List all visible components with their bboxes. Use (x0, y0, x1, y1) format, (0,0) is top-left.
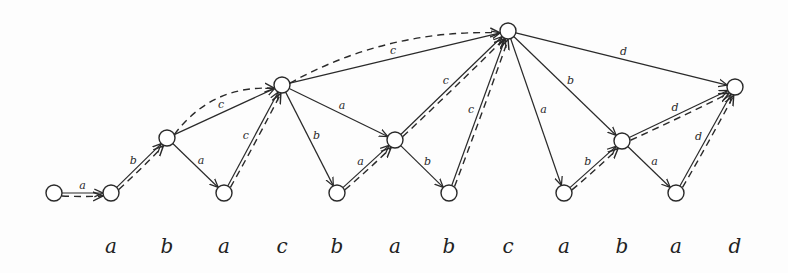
input-character: b (157, 234, 177, 258)
suffix-link-edge (62, 196, 103, 197)
state-node (727, 79, 743, 95)
automaton-diagram: abaccbaacbccabbaddd abacbabcabad (0, 0, 788, 273)
edge-label: b (584, 155, 591, 168)
edge-label: b (130, 154, 137, 167)
suffix-link-edge (631, 93, 730, 140)
state-node (500, 23, 516, 39)
state-node (216, 185, 232, 201)
edge-label: b (313, 129, 320, 142)
input-character: a (666, 234, 686, 258)
edge-label: d (620, 45, 627, 58)
edge-label: c (243, 129, 249, 142)
transition-edge (343, 145, 389, 187)
state-node (441, 185, 457, 201)
suffix-link-edge (119, 146, 164, 190)
state-node (46, 185, 62, 201)
graph-canvas: abaccbaacbccabbaddd (0, 0, 788, 273)
edge-label: c (468, 103, 474, 116)
edge-label: a (339, 99, 346, 112)
input-character: b (439, 234, 459, 258)
input-character: a (101, 234, 121, 258)
edge-label: a (357, 155, 364, 168)
edge-label: d (672, 101, 679, 114)
suffix-link-edge (403, 39, 504, 137)
state-node (556, 185, 572, 201)
transition-edge (401, 37, 502, 135)
edge-label: d (695, 130, 702, 143)
edge-label: a (540, 103, 547, 116)
transition-edge (117, 144, 162, 188)
transition-edge (514, 37, 616, 136)
edge-label: a (79, 179, 86, 192)
suffix-link-edge (572, 149, 618, 190)
edge-label: b (424, 155, 431, 168)
edge-label: b (567, 74, 574, 87)
edge-label: a (651, 155, 658, 168)
transition-edge (452, 39, 506, 186)
edge-label: a (198, 154, 205, 167)
input-character: c (498, 234, 518, 258)
transition-layer (62, 33, 731, 193)
transition-edge (629, 90, 728, 137)
suffix-link-edge (230, 93, 280, 187)
state-node (614, 133, 630, 149)
transition-edge (173, 144, 218, 188)
state-node (668, 185, 684, 201)
transition-edge (628, 147, 670, 188)
input-character: a (385, 234, 405, 258)
state-node (274, 77, 290, 93)
transition-edge (680, 94, 731, 186)
edge-label: c (218, 98, 224, 111)
transition-edge (401, 146, 444, 188)
state-node (387, 132, 403, 148)
edge-label: c (390, 44, 396, 57)
input-character: a (554, 234, 574, 258)
input-character: b (327, 234, 347, 258)
suffix-link-edge (345, 148, 391, 190)
edge-label: c (443, 74, 449, 87)
state-node (103, 185, 119, 201)
transition-edge (290, 33, 500, 83)
transition-edge (570, 146, 616, 187)
state-node (159, 130, 175, 146)
suffix-link-edge (683, 95, 734, 187)
transition-edge (511, 39, 562, 186)
edge-label-layer: abaccbaacbccabbaddd (79, 44, 702, 192)
state-node (329, 185, 345, 201)
input-character: d (725, 234, 745, 258)
input-character: c (272, 234, 292, 258)
input-character: a (214, 234, 234, 258)
input-character: b (612, 234, 632, 258)
transition-edge (516, 33, 727, 85)
